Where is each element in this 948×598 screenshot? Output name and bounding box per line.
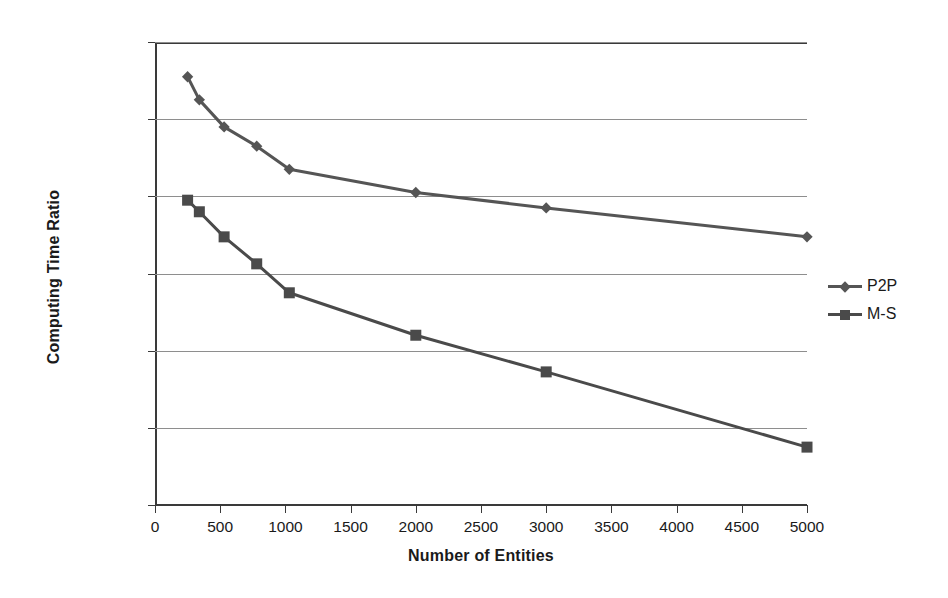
legend-marker-swatch: [839, 281, 850, 292]
legend-item-m-s[interactable]: M-S: [828, 300, 940, 328]
data-point-marker: [802, 442, 813, 453]
data-point-marker: [284, 287, 295, 298]
data-point-marker: [541, 366, 552, 377]
series-line-m-s: [188, 200, 807, 447]
y-tick-mark: [148, 505, 155, 506]
y-tick-mark: [148, 196, 155, 197]
y-tick-mark: [148, 274, 155, 275]
x-tick-mark: [155, 505, 156, 513]
data-point-marker: [251, 258, 262, 269]
y-tick-mark: [148, 428, 155, 429]
legend-square-marker-icon: [828, 307, 862, 321]
x-tick-mark: [481, 505, 482, 513]
series-layer: [155, 42, 807, 505]
data-point-marker: [410, 187, 421, 198]
x-tick-mark: [351, 505, 352, 513]
x-tick-mark: [416, 505, 417, 513]
series-line-p2p: [188, 77, 807, 237]
x-tick-mark: [220, 505, 221, 513]
data-point-marker: [541, 202, 552, 213]
data-point-marker: [182, 71, 193, 82]
x-tick-mark: [285, 505, 286, 513]
x-tick-mark: [546, 505, 547, 513]
data-point-marker: [194, 206, 205, 217]
legend-diamond-marker-icon: [828, 279, 862, 293]
x-tick-mark: [611, 505, 612, 513]
x-axis-title: Number of Entities: [155, 547, 807, 565]
y-tick-mark: [148, 42, 155, 43]
legend-label: P2P: [867, 277, 897, 295]
data-point-marker: [182, 195, 193, 206]
x-tick-label: 5000: [767, 518, 847, 536]
chart-legend: P2PM-S: [828, 272, 940, 328]
legend-marker-swatch: [840, 310, 850, 320]
y-tick-mark: [148, 351, 155, 352]
legend-item-p2p[interactable]: P2P: [828, 272, 940, 300]
x-tick-mark: [742, 505, 743, 513]
data-point-marker: [801, 231, 812, 242]
y-tick-mark: [148, 119, 155, 120]
x-tick-mark: [677, 505, 678, 513]
x-tick-mark: [807, 505, 808, 513]
line-chart: Computing Time Ratio Number of Entities …: [0, 0, 948, 598]
data-point-marker: [219, 231, 230, 242]
y-axis-title: Computing Time Ratio: [45, 127, 63, 427]
data-point-marker: [410, 330, 421, 341]
plot-area: 97,60%97,80%98,00%98,20%98,40%98,60%98,8…: [155, 42, 807, 505]
legend-label: M-S: [867, 305, 896, 323]
